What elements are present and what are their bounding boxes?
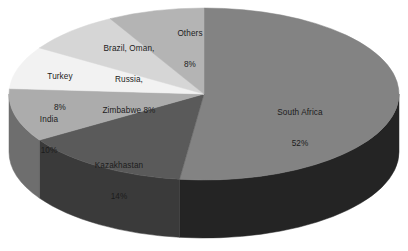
pie-label-south-africa-name: South Africa — [247, 108, 353, 118]
pie-label-others-value: 8% — [154, 60, 226, 70]
pie-label-others-name: Others — [154, 29, 226, 39]
pie-label-kazakhastan-value: 14% — [60, 192, 178, 202]
pie-label-india-value: 10% — [10, 146, 88, 156]
pie-label-brazil-group-line3: Zimbabwe 8% — [74, 106, 184, 116]
pie-chart-figure: South Africa 52% Kazakhastan 14% India 1… — [0, 0, 408, 251]
pie-label-others: Others 8% — [154, 9, 226, 91]
pie-label-south-africa-value: 52% — [247, 139, 353, 149]
pie-label-south-africa: South Africa 52% — [247, 88, 353, 170]
